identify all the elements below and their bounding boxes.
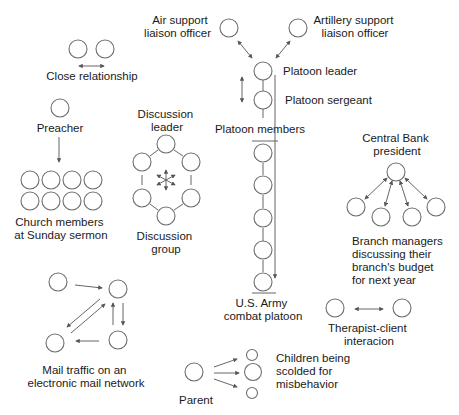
person-node <box>69 40 87 58</box>
platoon-sergeant-label: Platoon sergeant <box>285 94 373 106</box>
mail-network-group: Mail traffic on an electronic mail netwo… <box>28 273 145 389</box>
air-support-node <box>220 19 238 37</box>
church-members-label: Church members at Sunday sermon <box>14 216 107 241</box>
artillery-support-node <box>289 19 307 37</box>
therapist-client-label: Therapist-client interacion <box>328 322 410 347</box>
children-label: Children being scolded for misbehavior <box>276 352 353 390</box>
platoon-sergeant-node <box>254 91 272 109</box>
central-bank-label: Central Bank president <box>362 132 432 157</box>
central-bank-group: Central Bank president Branch managers d… <box>347 132 446 286</box>
discussion-leader-label: Discussion leader <box>138 108 197 133</box>
bank-president-node <box>387 163 405 181</box>
close-relationship-group: Close relationship <box>46 40 137 82</box>
church-members <box>21 171 102 210</box>
discussion-group-label: Discussion group <box>137 230 196 255</box>
therapist-node <box>326 299 344 317</box>
mail-network-label: Mail traffic on an electronic mail netwo… <box>28 364 145 389</box>
branch-managers-label: Branch managers discussing their branch'… <box>352 235 446 286</box>
close-relationship-label: Close relationship <box>46 70 137 82</box>
communication-networks-diagram: Close relationship Preacher Church membe… <box>0 0 459 415</box>
platoon-leader-node <box>254 62 272 80</box>
discussion-group: Discussion leader Discussion group <box>133 108 200 255</box>
preacher-label: Preacher <box>37 122 84 134</box>
preacher-group: Preacher Church members at Sunday sermon <box>14 99 107 241</box>
air-support-label: Air support liaison officer <box>144 14 211 39</box>
therapist-client-group: Therapist-client interacion <box>326 299 411 347</box>
platoon-leader-label: Platoon leader <box>283 65 357 77</box>
parent-node <box>185 363 203 381</box>
person-node <box>96 40 114 58</box>
artillery-support-label: Artillery support liaison officer <box>313 14 396 39</box>
parent-label: Parent <box>179 394 214 406</box>
preacher-node <box>51 99 69 117</box>
discussion-leader-node <box>157 135 175 153</box>
parent-children-group: Parent Children being scolded for misbeh… <box>179 350 353 407</box>
platoon-members-label: Platoon members <box>215 123 305 135</box>
platoon-unit-label: U.S. Army combat platoon <box>224 297 303 322</box>
client-node <box>393 299 411 317</box>
